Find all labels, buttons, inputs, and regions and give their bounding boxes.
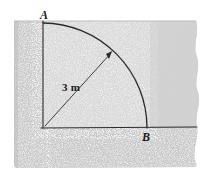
slab-left-aggregate-strip — [14, 21, 46, 168]
label-radius-dimension: 3 m — [62, 82, 80, 93]
figure-container: A B 3 m — [0, 0, 222, 178]
label-point-a: A — [40, 9, 48, 21]
label-point-b: B — [142, 131, 150, 143]
concrete-slab — [10, 18, 205, 174]
diagram-canvas — [0, 0, 222, 178]
slab-right-shadow — [150, 21, 205, 129]
